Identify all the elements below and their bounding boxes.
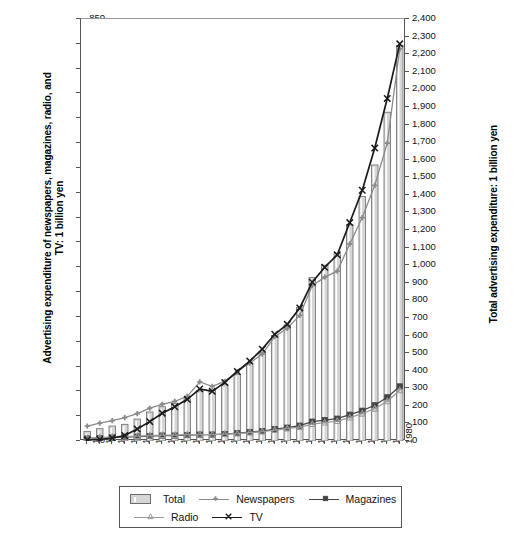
plot-area: [80, 18, 405, 440]
bar-total: [322, 265, 329, 441]
legend-item-total[interactable]: Total: [126, 493, 185, 505]
marker-square: [323, 496, 328, 501]
y-tick-label-right: 1,900: [412, 101, 458, 111]
series-tv: [84, 41, 403, 441]
legend-key-line-cross-icon: [212, 511, 242, 523]
y-tick-label-right: 1,700: [412, 136, 458, 146]
marker-plus: [110, 418, 115, 423]
y-tick-label-right: 1,300: [412, 206, 458, 216]
y-tick-label-right: 300: [412, 382, 458, 392]
legend-label: Newspapers: [236, 493, 294, 505]
chart-root: Advertising expenditure of newspapers, m…: [0, 0, 517, 539]
legend-item-magazines[interactable]: Magazines: [309, 493, 397, 505]
y-tick-label-right: 1,400: [412, 189, 458, 199]
marker-triangle: [148, 514, 153, 519]
legend-label: TV: [249, 511, 262, 523]
legend-row-2: RadioTV: [126, 508, 395, 526]
y-tick-label-right: 2,400: [412, 13, 458, 23]
legend-key-line-square-icon: [309, 493, 339, 505]
bar-total: [309, 277, 316, 441]
bar-total: [334, 254, 341, 441]
y-tick-label-right: 600: [412, 330, 458, 340]
chart-svg: [81, 19, 406, 441]
legend-key-line-plus-icon: [199, 493, 229, 505]
legend-key-line-triangle-icon: [134, 511, 164, 523]
marker-plus: [213, 496, 218, 501]
chart-legend: TotalNewspapersMagazines RadioTV: [119, 486, 402, 528]
y-tick-label-right: 1,100: [412, 242, 458, 252]
y-tick-mark-left: [76, 440, 80, 441]
y-tick-label-right: 1,200: [412, 224, 458, 234]
legend-key-bar-icon: [126, 493, 156, 505]
marker-plus: [122, 415, 127, 420]
marker-plus: [147, 406, 152, 411]
y-axis-right-title: Total advertising expenditure: 1 billion…: [488, 99, 500, 349]
legend-label: Total: [163, 493, 185, 505]
legend-item-radio[interactable]: Radio: [134, 511, 198, 523]
series-radio: [84, 387, 403, 441]
series-total-bars: [84, 45, 403, 441]
bar-total: [384, 112, 391, 441]
series-newspapers: [85, 46, 403, 429]
bar-total: [347, 225, 354, 441]
y-tick-label-right: 1,800: [412, 119, 458, 129]
y-tick-label-right: 800: [412, 294, 458, 304]
legend-row-1: TotalNewspapersMagazines: [126, 490, 395, 508]
y-tick-label-right: 100: [412, 417, 458, 427]
y-tick-label-right: 2,000: [412, 83, 458, 93]
y-tick-label-right: 1,600: [412, 154, 458, 164]
legend-label: Magazines: [346, 493, 397, 505]
y-tick-label-right: 700: [412, 312, 458, 322]
marker-plus: [135, 411, 140, 416]
legend-item-newspapers[interactable]: Newspapers: [199, 493, 294, 505]
y-tick-label-right: 1,500: [412, 171, 458, 181]
bar-total: [284, 325, 291, 441]
y-tick-label-right: 2,200: [412, 48, 458, 58]
marker-plus: [210, 384, 215, 389]
y-tick-label-right: 200: [412, 400, 458, 410]
bar-total: [297, 307, 304, 441]
y-tick-label-right: 2,300: [412, 31, 458, 41]
marker-cross: [226, 514, 232, 520]
y-tick-label-right: 500: [412, 347, 458, 357]
y-tick-label-right: 2,100: [412, 66, 458, 76]
marker-plus: [160, 402, 165, 407]
bar-total: [359, 197, 366, 441]
legend-item-tv[interactable]: TV: [212, 511, 262, 523]
legend-label: Radio: [171, 511, 198, 523]
marker-plus: [85, 424, 90, 429]
marker-cross: [259, 346, 265, 352]
bar-total: [372, 165, 379, 441]
marker-plus: [97, 421, 102, 426]
y-tick-label-right: 0: [412, 435, 458, 445]
bar-total: [272, 336, 279, 442]
y-tick-label-right: 1,000: [412, 259, 458, 269]
bar-total: [397, 45, 404, 441]
y-tick-label-right: 400: [412, 365, 458, 375]
y-tick-label-right: 900: [412, 277, 458, 287]
